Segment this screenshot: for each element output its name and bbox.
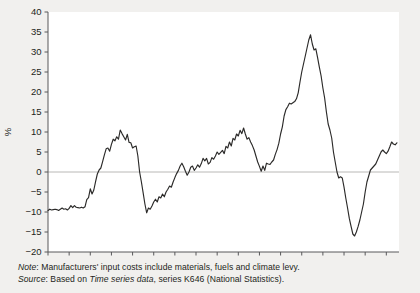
x-axis-tick-label: 2014 (376, 258, 397, 259)
y-axis-tick-label: 20 (31, 86, 42, 97)
x-axis-tick-label: 2004 (164, 258, 185, 259)
chart-footnotes: Note: Manufacturers' input costs include… (18, 262, 418, 285)
x-axis-tick-label: 2006 (207, 258, 228, 259)
y-axis-tick-label: −20 (25, 246, 41, 257)
x-axis-tick-label: 2010 (291, 258, 312, 259)
y-axis-tick-label: −15 (25, 226, 41, 237)
source-label: Source (18, 274, 46, 284)
line-chart-svg: −20−15−10−505101520253035401998200020022… (0, 0, 420, 258)
y-axis-tick-label: −5 (31, 186, 42, 197)
y-axis-tick-label: 40 (31, 6, 42, 17)
y-axis-tick-label: 30 (31, 46, 42, 57)
note-label: Note (18, 262, 36, 272)
source-suffix: , series K646 (National Statistics). (154, 274, 285, 284)
chart-figure: −20−15−10−505101520253035401998200020022… (0, 0, 420, 293)
source-italic-title: Time series data (89, 274, 153, 284)
chart-plot-area: −20−15−10−505101520253035401998200020022… (0, 0, 420, 258)
note-line: Note: Manufacturers' input costs include… (18, 262, 418, 274)
y-axis-tick-label: 25 (31, 66, 42, 77)
y-axis-tick-label: 15 (31, 106, 42, 117)
y-axis-tick-label: 35 (31, 26, 42, 37)
x-axis-tick-label: 1998 (37, 258, 58, 259)
x-axis-tick-label: 2002 (122, 258, 143, 259)
plot-background (48, 12, 399, 252)
x-axis-tick-label: 2000 (80, 258, 101, 259)
x-axis-tick-label: 2008 (249, 258, 270, 259)
y-axis-tick-label: 5 (36, 146, 41, 157)
y-axis-tick-label: 10 (31, 126, 42, 137)
y-axis-tick-label: −10 (25, 206, 41, 217)
note-text: : Manufacturers' input costs include mat… (36, 262, 299, 272)
source-line: Source: Based on Time series data, serie… (18, 274, 418, 286)
x-axis-tick-label: 2012 (333, 258, 354, 259)
source-prefix: : Based on (46, 274, 90, 284)
y-axis-tick-label: 0 (36, 166, 41, 177)
y-axis-title: % (2, 127, 13, 136)
